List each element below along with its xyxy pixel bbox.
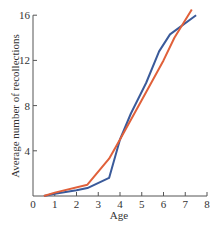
x-tick-label: 1	[52, 198, 58, 210]
axes: 012345678481216	[19, 9, 210, 210]
x-axis-label: Age	[110, 209, 128, 221]
x-tick-label: 3	[96, 198, 102, 210]
x-tick-label: 5	[139, 198, 145, 210]
series-line-orange	[44, 10, 192, 197]
line-chart: 012345678481216 Age Average number of re…	[0, 0, 220, 229]
series-group	[44, 10, 196, 197]
x-tick-label: 2	[74, 198, 80, 210]
y-tick-label: 8	[25, 100, 31, 112]
x-tick-label: 7	[183, 198, 189, 210]
y-axis-label: Average number of recollections	[9, 34, 21, 178]
y-tick-label: 16	[19, 9, 31, 21]
x-tick-label: 0	[30, 198, 36, 210]
y-tick-label: 4	[25, 145, 31, 157]
x-tick-label: 6	[161, 198, 167, 210]
x-tick-label: 8	[204, 198, 210, 210]
